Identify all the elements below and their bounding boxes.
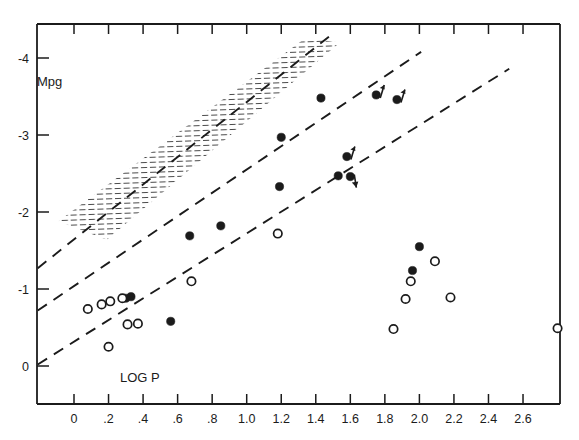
x-tick-label-4: .8 (207, 412, 217, 426)
x-tick-label-5: 1.0 (238, 412, 255, 426)
y-axis-label: Mpg (37, 74, 62, 89)
open-point-2 (106, 297, 114, 305)
upper-ridge-line (38, 33, 333, 268)
filled-point-3 (186, 232, 194, 240)
x-tick-label-6: 1.2 (273, 412, 290, 426)
x-tick-label-10: 2.0 (411, 412, 428, 426)
open-point-1 (97, 300, 105, 308)
x-tick-label-2: .4 (138, 412, 148, 426)
open-point-7 (187, 277, 195, 285)
axis-tick-labels-group: 0.2.4.6.81.01.21.41.61.82.02.22.42.6-4-3… (18, 52, 532, 426)
x-tick-label-11: 2.2 (445, 412, 462, 426)
open-point-4 (123, 320, 131, 328)
filled-point-7 (317, 94, 325, 102)
plot-figure: 0.2.4.6.81.01.21.41.61.82.02.22.42.6-4-3… (0, 0, 579, 440)
x-tick-label-0: 0 (71, 412, 78, 426)
open-point-14 (553, 324, 561, 332)
filled-point-6 (277, 133, 285, 141)
open-point-10 (431, 257, 439, 265)
open-point-0 (84, 305, 92, 313)
y-tick-label-1: -3 (18, 129, 29, 143)
filled-point-9 (343, 152, 351, 160)
x-axis-label: LOG P (120, 370, 160, 385)
plot-canvas: 0.2.4.6.81.01.21.41.61.82.02.22.42.6-4-3… (0, 0, 579, 440)
y-tick-label-4: 0 (22, 360, 29, 374)
filled-point-10 (346, 172, 354, 180)
filled-point-2 (167, 317, 175, 325)
instability-strip-band (58, 38, 340, 240)
open-point-6 (104, 343, 112, 351)
x-tick-label-12: 2.4 (480, 412, 497, 426)
filled-point-5 (275, 182, 283, 190)
open-point-3 (118, 294, 126, 302)
open-point-9 (407, 277, 415, 285)
x-tick-label-7: 1.4 (307, 412, 324, 426)
hatched-region (58, 38, 340, 240)
arrow-marker-2 (350, 147, 355, 160)
arrow-marker-0 (380, 85, 385, 98)
x-tick-label-8: 1.6 (342, 412, 359, 426)
filled-point-13 (415, 243, 423, 251)
open-point-8 (274, 229, 282, 237)
x-tick-label-13: 2.6 (514, 412, 531, 426)
middle-ridge-line (38, 52, 421, 311)
filled-point-14 (408, 266, 416, 274)
filled-point-11 (372, 91, 380, 99)
x-tick-label-9: 1.8 (376, 412, 393, 426)
open-point-5 (134, 319, 142, 327)
y-tick-label-3: -1 (18, 283, 29, 297)
x-tick-label-3: .6 (172, 412, 182, 426)
series-filled-circles (122, 91, 424, 326)
filled-point-8 (334, 172, 342, 180)
x-tick-label-1: .2 (103, 412, 113, 426)
arrow-marker-1 (400, 90, 405, 103)
filled-point-12 (393, 95, 401, 103)
y-tick-label-0: -4 (18, 52, 29, 66)
open-point-11 (401, 295, 409, 303)
open-point-12 (446, 293, 454, 301)
open-point-13 (389, 325, 397, 333)
filled-point-4 (217, 222, 225, 230)
filled-point-1 (127, 293, 135, 301)
data-points-group (84, 91, 562, 351)
y-tick-label-2: -2 (18, 206, 29, 220)
